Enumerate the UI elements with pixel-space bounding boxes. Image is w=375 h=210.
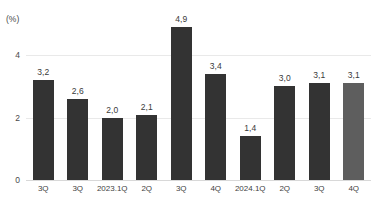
bar-column[interactable]: 3,2: [33, 10, 54, 180]
bar-column[interactable]: 1,4: [240, 10, 261, 180]
bar[interactable]: [33, 80, 54, 180]
bar-value-label: 3,1: [348, 70, 360, 80]
x-axis-tick-label: 3Q: [38, 184, 49, 193]
bar-column[interactable]: 3,0: [274, 10, 295, 180]
bar-column[interactable]: 2,0: [102, 10, 123, 180]
x-axis-tick-label: 2024.1Q: [235, 184, 266, 193]
x-axis-tick-label: 2Q: [279, 184, 290, 193]
bar-value-label: 4,9: [175, 14, 187, 24]
bar[interactable]: [67, 99, 88, 180]
bar-chart: (%) 024 3,22,62,02,14,93,41,43,03,13,1 3…: [0, 0, 375, 210]
plot-area: 024 3,22,62,02,14,93,41,43,03,13,1: [26, 10, 371, 180]
y-axis-unit-label: (%): [6, 14, 19, 24]
bar-value-label: 3,2: [37, 67, 49, 77]
bar-column[interactable]: 3,1: [343, 10, 364, 180]
bar-value-label: 3,1: [313, 70, 325, 80]
bar[interactable]: [309, 83, 330, 180]
x-axis-tick-label: 3Q: [72, 184, 83, 193]
x-axis-tick-label: 3Q: [314, 184, 325, 193]
bar-column[interactable]: 4,9: [171, 10, 192, 180]
bar-value-label: 3,4: [210, 61, 222, 71]
bar-series: 3,22,62,02,14,93,41,43,03,13,1: [26, 10, 371, 180]
bar-column[interactable]: 3,1: [309, 10, 330, 180]
bar-value-label: 2,6: [72, 86, 84, 96]
bar[interactable]: [343, 83, 364, 180]
bar-value-label: 1,4: [244, 123, 256, 133]
y-axis-tick-label: 4: [15, 50, 20, 60]
x-axis-tick-label: 3Q: [176, 184, 187, 193]
axis-baseline: [26, 180, 371, 181]
bar-value-label: 2,0: [106, 105, 118, 115]
x-axis-labels: 3Q3Q2023.1Q2Q3Q4Q2024.1Q2Q3Q4Q: [26, 184, 371, 200]
bar[interactable]: [274, 86, 295, 180]
bar-value-label: 2,1: [141, 102, 153, 112]
bar-column[interactable]: 2,1: [136, 10, 157, 180]
bar[interactable]: [136, 115, 157, 181]
bar-column[interactable]: 2,6: [67, 10, 88, 180]
x-axis-tick-label: 2Q: [141, 184, 152, 193]
bar[interactable]: [171, 27, 192, 180]
x-axis-tick-label: 4Q: [210, 184, 221, 193]
y-axis-tick-label: 0: [15, 175, 20, 185]
x-axis-tick-label: 4Q: [348, 184, 359, 193]
bar[interactable]: [102, 118, 123, 180]
bar[interactable]: [205, 74, 226, 180]
x-axis-tick-label: 2023.1Q: [97, 184, 128, 193]
bar-value-label: 3,0: [279, 73, 291, 83]
y-axis-tick-label: 2: [15, 113, 20, 123]
bar-column[interactable]: 3,4: [205, 10, 226, 180]
bar[interactable]: [240, 136, 261, 180]
